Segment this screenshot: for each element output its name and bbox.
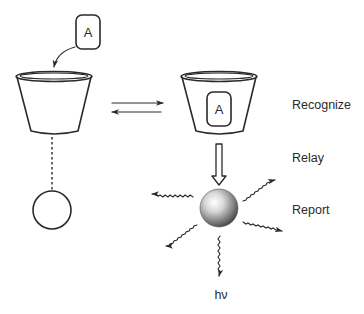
analyte-label: A (84, 25, 93, 40)
cup-body (17, 77, 91, 134)
binding-arrow (54, 47, 75, 67)
stage-label-relay: Relay (292, 151, 325, 165)
ray-lower-left (166, 225, 197, 246)
emission-label: hν (214, 288, 227, 302)
reporter-on-sphere (200, 189, 238, 227)
ray-down (218, 236, 220, 276)
ray-upper-right (243, 180, 275, 201)
relay-arrow (212, 144, 226, 185)
ray-lower-right (243, 222, 282, 231)
sensor-mechanism-diagram: A A hν Recognize Relay Report (0, 0, 364, 314)
cup-rim-inner (20, 73, 88, 79)
stage-label-recognize: Recognize (292, 98, 351, 112)
receptor-cup-unbound (16, 72, 92, 135)
free-analyte: A (76, 15, 100, 49)
ray-upper-left (152, 194, 193, 197)
stage-label-report: Report (292, 203, 330, 217)
bound-analyte-label: A (215, 102, 224, 117)
equilibrium-arrows (112, 103, 163, 112)
reporter-off-circle (33, 191, 71, 229)
cup-rim-inner (185, 73, 253, 79)
receptor-cup-bound: A (181, 72, 257, 135)
